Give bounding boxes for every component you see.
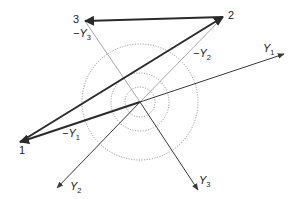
point-label-1: 1 <box>19 144 25 156</box>
axis-label-y1: Y1 <box>263 42 275 57</box>
labels: 123Y1Y2Y3−Y1−Y2−Y3 <box>19 9 275 195</box>
vector-label-neg-y1: −Y1 <box>62 127 80 142</box>
vector-label-neg-y2: −Y2 <box>193 47 211 62</box>
axis-label-y3: Y3 <box>199 174 211 189</box>
side-1-2 <box>20 17 223 142</box>
thick-vectors <box>20 17 223 142</box>
vector-neg-y1 <box>20 102 140 142</box>
axis-y1 <box>140 54 284 102</box>
vector-diagram: 123Y1Y2Y3−Y1−Y2−Y3 <box>0 0 296 199</box>
axis-vectors <box>57 54 284 190</box>
side-2-3 <box>85 17 223 21</box>
point-label-2: 2 <box>228 9 234 21</box>
axis-label-y2: Y2 <box>70 180 82 195</box>
axis-y3 <box>140 102 198 190</box>
vector-label-neg-y3: −Y3 <box>73 27 91 42</box>
vector-neg-y3 <box>85 21 140 102</box>
point-label-3: 3 <box>73 13 79 25</box>
